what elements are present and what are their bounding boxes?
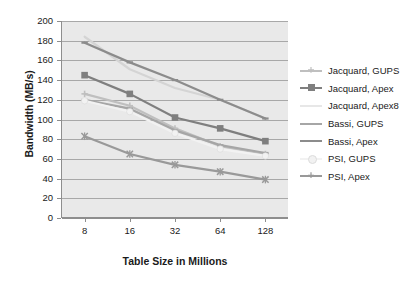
series-psi-apex bbox=[81, 132, 268, 183]
legend-item[interactable]: Jacquard, Apex bbox=[300, 80, 408, 98]
legend-key-icon bbox=[300, 82, 322, 94]
legend-key-icon bbox=[300, 65, 322, 77]
y-tick-label: 200 bbox=[23, 16, 53, 25]
y-tick-label: 0 bbox=[23, 213, 53, 222]
y-tick-mark bbox=[57, 21, 61, 22]
legend-item[interactable]: Bassi, Apex bbox=[300, 132, 408, 150]
y-tick-mark bbox=[57, 41, 61, 42]
y-tick-label: 40 bbox=[23, 174, 53, 183]
x-tick-label: 8 bbox=[65, 225, 105, 236]
legend-key-icon bbox=[300, 153, 322, 165]
x-tick-mark bbox=[220, 218, 221, 222]
legend-key-icon bbox=[300, 135, 322, 147]
legend-key-icon bbox=[300, 118, 322, 130]
legend-item[interactable]: Bassi, GUPS bbox=[300, 115, 408, 133]
y-tick-mark bbox=[57, 100, 61, 101]
legend-item-label: Jacquard, Apex bbox=[328, 83, 394, 94]
legend-item-label: Bassi, Apex bbox=[328, 136, 378, 147]
legend-item-label: Bassi, GUPS bbox=[328, 118, 383, 129]
series-jacquard-gups bbox=[81, 91, 268, 157]
legend-key-icon bbox=[300, 100, 322, 112]
legend-item[interactable]: PSI, Apex bbox=[300, 168, 408, 186]
chart-figure: Bandwidth (MB/s) 02040608010012014016018… bbox=[0, 0, 409, 281]
y-tick-label: 180 bbox=[23, 36, 53, 45]
plot-area: 020406080100120140160180200 8163264128 bbox=[62, 21, 288, 218]
series-lines bbox=[62, 21, 288, 218]
x-tick-mark bbox=[175, 218, 176, 222]
y-tick-label: 100 bbox=[23, 115, 53, 124]
legend-item-label: PSI, GUPS bbox=[328, 153, 376, 164]
legend-item-label: PSI, Apex bbox=[328, 171, 370, 182]
y-tick-mark bbox=[57, 80, 61, 81]
y-tick-mark bbox=[57, 218, 61, 219]
y-tick-mark bbox=[57, 139, 61, 140]
x-tick-label: 128 bbox=[245, 225, 285, 236]
x-tick-label: 32 bbox=[155, 225, 195, 236]
legend-item-label: Jacquard, GUPS bbox=[328, 65, 399, 76]
x-tick-mark bbox=[130, 218, 131, 222]
y-tick-mark bbox=[57, 159, 61, 160]
legend-key-icon bbox=[300, 170, 322, 182]
legend-item[interactable]: Jacquard, Apex8 bbox=[300, 97, 408, 115]
x-tick-label: 16 bbox=[110, 225, 150, 236]
y-tick-label: 60 bbox=[23, 154, 53, 163]
y-tick-mark bbox=[57, 198, 61, 199]
y-tick-label: 20 bbox=[23, 193, 53, 202]
y-tick-label: 120 bbox=[23, 95, 53, 104]
y-tick-label: 80 bbox=[23, 134, 53, 143]
legend-item-label: Jacquard, Apex8 bbox=[328, 100, 399, 111]
y-tick-label: 140 bbox=[23, 75, 53, 84]
x-axis-title: Table Size in Millions bbox=[55, 255, 295, 267]
y-tick-mark bbox=[57, 179, 61, 180]
legend-item[interactable]: Jacquard, GUPS bbox=[300, 62, 408, 80]
x-tick-label: 64 bbox=[200, 225, 240, 236]
x-tick-mark bbox=[85, 218, 86, 222]
y-tick-mark bbox=[57, 60, 61, 61]
legend-item[interactable]: PSI, GUPS bbox=[300, 150, 408, 168]
y-tick-mark bbox=[57, 120, 61, 121]
x-tick-mark bbox=[265, 218, 266, 222]
chart-legend: Jacquard, GUPSJacquard, ApexJacquard, Ap… bbox=[300, 62, 408, 185]
y-tick-label: 160 bbox=[23, 55, 53, 64]
